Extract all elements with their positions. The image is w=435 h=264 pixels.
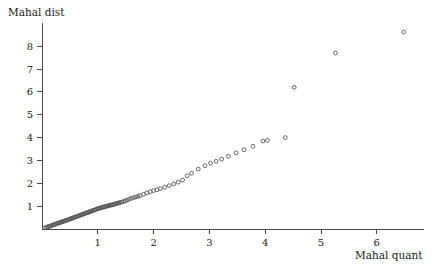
axes-group bbox=[42, 23, 424, 229]
data-point bbox=[163, 185, 167, 189]
data-point bbox=[214, 159, 218, 163]
data-point bbox=[190, 171, 194, 175]
y-axis-title: Mahal dist bbox=[8, 6, 65, 18]
data-point bbox=[334, 51, 338, 55]
data-point bbox=[226, 154, 230, 158]
y-tick-label-5: 5 bbox=[27, 109, 33, 120]
x-tick-label-5: 5 bbox=[318, 237, 324, 248]
data-point bbox=[402, 30, 406, 34]
y-tick-label-2: 2 bbox=[27, 178, 33, 189]
data-point bbox=[185, 174, 189, 178]
data-points-group bbox=[43, 30, 406, 230]
data-point bbox=[196, 167, 200, 171]
chart-container: 12345678123456 Mahal dist Mahal quant bbox=[0, 0, 435, 264]
data-point bbox=[242, 148, 246, 152]
y-tick-label-1: 1 bbox=[27, 201, 33, 212]
x-axis-title: Mahal quant bbox=[355, 249, 423, 261]
data-point bbox=[266, 138, 270, 142]
y-tick-label-6: 6 bbox=[27, 86, 33, 97]
x-tick-label-6: 6 bbox=[374, 237, 380, 248]
data-point bbox=[209, 161, 213, 165]
data-point bbox=[167, 184, 171, 188]
data-point bbox=[234, 151, 238, 155]
y-tick-label-7: 7 bbox=[27, 64, 33, 75]
data-point bbox=[176, 180, 180, 184]
x-tick-label-2: 2 bbox=[150, 237, 156, 248]
data-point bbox=[292, 85, 296, 89]
data-point bbox=[203, 164, 207, 168]
y-tick-label-8: 8 bbox=[27, 41, 33, 52]
data-point bbox=[251, 144, 255, 148]
qq-plot-svg: 12345678123456 Mahal dist Mahal quant bbox=[0, 0, 435, 264]
data-point bbox=[261, 139, 265, 143]
x-tick-label-4: 4 bbox=[262, 237, 268, 248]
x-tick-label-1: 1 bbox=[95, 237, 101, 248]
data-point bbox=[220, 157, 224, 161]
data-point bbox=[172, 182, 176, 186]
data-point bbox=[283, 136, 287, 140]
y-tick-label-4: 4 bbox=[27, 132, 33, 143]
data-point bbox=[181, 178, 185, 182]
y-tick-label-3: 3 bbox=[27, 155, 33, 166]
x-tick-label-3: 3 bbox=[206, 237, 212, 248]
